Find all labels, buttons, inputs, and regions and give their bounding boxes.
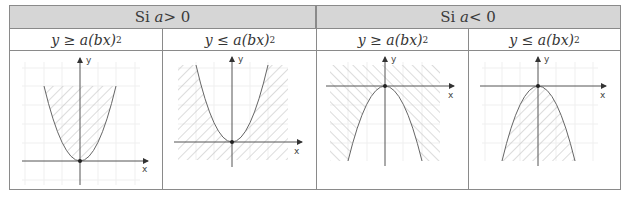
y-axis-label: y (391, 54, 396, 64)
y-axis-label: y (544, 54, 549, 64)
graph-4 (480, 57, 606, 166)
graph-2 (174, 57, 302, 167)
x-axis-label: x (294, 146, 299, 156)
shaded-region (178, 65, 288, 160)
x-axis-label: x (600, 90, 605, 100)
graph-1 (22, 58, 148, 185)
vertex-point (383, 84, 387, 88)
vertex-point (230, 140, 234, 144)
graphs-canvas (0, 0, 627, 199)
vertex-point (536, 84, 540, 88)
x-axis-label: x (448, 90, 453, 100)
y-axis-label: y (238, 54, 243, 64)
y-axis-label: y (86, 55, 91, 65)
graph-3 (326, 57, 454, 166)
x-axis-label: x (142, 164, 147, 174)
vertex-point (78, 159, 82, 163)
